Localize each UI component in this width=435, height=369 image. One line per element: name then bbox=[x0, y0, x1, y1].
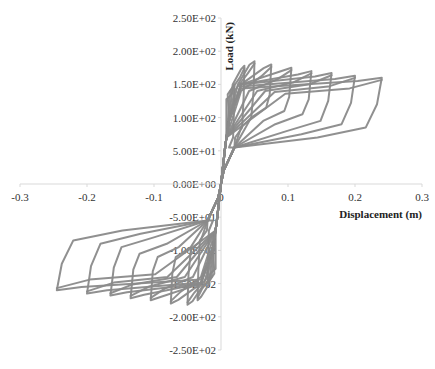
loading-branch bbox=[221, 80, 382, 184]
y-tick-label: 5.00E+01 bbox=[173, 145, 216, 157]
y-tick-label: 2.50E+02 bbox=[173, 12, 216, 24]
y-tick-label: 2.00E+02 bbox=[173, 45, 216, 57]
x-tick-label: 0.2 bbox=[348, 191, 362, 203]
x-axis-title: Displacement (m) bbox=[339, 208, 422, 221]
y-tick-label: 1.00E+02 bbox=[173, 112, 216, 124]
hysteresis-chart: 2.50E+022.00E+021.50E+021.00E+025.00E+01… bbox=[0, 0, 435, 369]
x-tick-label: -0.2 bbox=[78, 191, 95, 203]
plot-area bbox=[57, 61, 382, 305]
y-tick-label: 1.50E+02 bbox=[173, 78, 216, 90]
x-tick-label: -0.3 bbox=[11, 191, 29, 203]
y-axis-title: Load (kN) bbox=[223, 22, 236, 71]
x-tick-label: 0.3 bbox=[415, 191, 429, 203]
x-tick-label: -0.1 bbox=[145, 191, 162, 203]
y-tick-label: -2.50E+02 bbox=[169, 344, 216, 356]
x-tick-label: 0.1 bbox=[281, 191, 295, 203]
y-tick-label: -2.00E+02 bbox=[169, 311, 216, 323]
